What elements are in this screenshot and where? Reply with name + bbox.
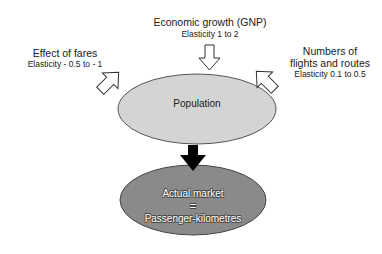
flights-title-line1: Numbers of <box>280 45 380 57</box>
economic-growth-title: Economic growth (GNP) <box>130 16 290 28</box>
actual-market-label: Actual market = Passenger-kilometres <box>118 188 268 226</box>
actual-market-line3: Passenger-kilometres <box>118 213 268 226</box>
fares-title: Effect of fares <box>15 47 115 59</box>
fares-elasticity: Elasticity - 0.5 to - 1 <box>15 59 115 70</box>
flights-title-line2: flights and routes <box>280 57 380 69</box>
population-node <box>118 74 276 144</box>
actual-market-line2: = <box>118 201 268 214</box>
economic-growth-elasticity: Elasticity 1 to 2 <box>130 29 290 40</box>
population-label: Population <box>137 98 257 109</box>
economic-growth-arrow-icon <box>199 45 220 70</box>
actual-market-line1: Actual market <box>118 188 268 201</box>
flights-elasticity: Elasticity 0.1 to 0.5 <box>280 69 380 80</box>
